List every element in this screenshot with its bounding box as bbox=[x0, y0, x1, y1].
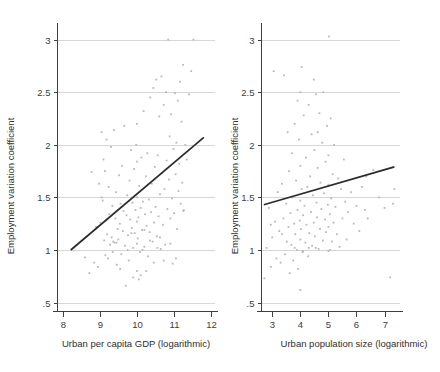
scatter-point bbox=[158, 215, 160, 217]
scatter-point bbox=[303, 114, 305, 116]
scatter-point bbox=[137, 238, 139, 240]
scatter-point bbox=[127, 234, 129, 236]
scatter-point bbox=[270, 266, 272, 268]
scatter-point bbox=[121, 165, 123, 167]
scatter-point bbox=[180, 203, 182, 205]
scatter-point bbox=[164, 244, 166, 246]
scatter-point bbox=[307, 255, 309, 257]
scatter-point bbox=[325, 231, 327, 233]
scatter-point bbox=[300, 228, 302, 230]
scatter-point bbox=[176, 228, 178, 230]
scatter-point bbox=[93, 262, 95, 264]
scatter-point bbox=[167, 208, 169, 210]
scatter-point bbox=[181, 121, 183, 123]
scatter-point bbox=[155, 79, 157, 81]
scatter-point bbox=[142, 249, 144, 251]
scatter-point bbox=[173, 212, 175, 214]
scatter-point bbox=[159, 193, 161, 195]
scatter-point bbox=[140, 157, 142, 159]
y-tick-label: 1 bbox=[249, 245, 254, 256]
scatter-point bbox=[329, 213, 331, 215]
scatter-point bbox=[296, 249, 298, 251]
scatter-point bbox=[273, 70, 275, 72]
scatter-point bbox=[353, 223, 355, 225]
scatter-point bbox=[325, 161, 327, 163]
scatter-point bbox=[149, 240, 151, 242]
scatter-point bbox=[277, 191, 279, 193]
right-x-axis-title: Urban population size (logarithmic) bbox=[281, 338, 428, 349]
scatter-point bbox=[152, 241, 154, 243]
scatter-point bbox=[313, 79, 315, 81]
scatter-point bbox=[310, 211, 312, 213]
scatter-point bbox=[181, 182, 183, 184]
scatter-point bbox=[139, 251, 141, 253]
scatter-point bbox=[308, 104, 310, 106]
scatter-point bbox=[301, 188, 303, 190]
scatter-point bbox=[190, 70, 192, 72]
scatter-point bbox=[333, 222, 335, 224]
scatter-point bbox=[136, 270, 138, 272]
right-y-axis-title: Employment variation coefficient bbox=[229, 117, 240, 254]
scatter-point bbox=[330, 198, 332, 200]
scatter-point bbox=[186, 159, 188, 161]
scatter-point bbox=[294, 247, 296, 249]
left-axes bbox=[53, 23, 219, 317]
scatter-point bbox=[358, 230, 360, 232]
scatter-point bbox=[84, 256, 86, 258]
scatter-point bbox=[356, 205, 358, 207]
scatter-point bbox=[101, 131, 103, 133]
x-tick-label: 6 bbox=[354, 319, 359, 330]
scatter-point bbox=[111, 236, 113, 238]
scatter-point bbox=[364, 209, 366, 211]
left-y-axis-title: Employment variation coefficient bbox=[5, 117, 16, 254]
scatter-point bbox=[119, 268, 121, 270]
scatter-point bbox=[136, 243, 138, 245]
scatter-point bbox=[274, 221, 276, 223]
scatter-point bbox=[145, 270, 147, 272]
scatter-point bbox=[150, 211, 152, 213]
scatter-point bbox=[306, 224, 308, 226]
scatter-point bbox=[144, 213, 146, 215]
scatter-point bbox=[138, 279, 140, 281]
scatter-point bbox=[389, 276, 391, 278]
scatter-point bbox=[270, 224, 272, 226]
scatter-point bbox=[138, 216, 140, 218]
scatter-point bbox=[132, 247, 134, 249]
scatter-point bbox=[183, 210, 185, 212]
x-tick-label: 12 bbox=[206, 319, 217, 330]
scatter-point bbox=[175, 142, 177, 144]
scatter-point bbox=[136, 197, 138, 199]
scatter-point bbox=[167, 39, 169, 41]
scatter-point bbox=[136, 123, 138, 125]
scatter-point bbox=[115, 191, 117, 193]
scatter-point bbox=[178, 190, 180, 192]
scatter-point bbox=[323, 192, 325, 194]
scatter-point bbox=[297, 268, 299, 270]
scatter-point bbox=[161, 76, 163, 78]
left-x-axis-title: Urban per capita GDP (logarithmic) bbox=[62, 338, 210, 349]
scatter-point bbox=[316, 202, 318, 204]
scatter-point bbox=[340, 188, 342, 190]
y-tick-label: 1 bbox=[45, 245, 50, 256]
scatter-point bbox=[113, 129, 115, 131]
y-tick-label: 3 bbox=[249, 35, 254, 46]
y-tick-label: 3 bbox=[45, 35, 50, 46]
scatter-point bbox=[104, 254, 106, 256]
y-tick-label: 2 bbox=[45, 140, 50, 151]
scatter-point bbox=[271, 236, 273, 238]
scatter-point bbox=[148, 199, 150, 201]
scatter-point bbox=[315, 247, 317, 249]
scatter-point bbox=[103, 159, 105, 161]
scatter-point bbox=[120, 253, 122, 255]
scatter-point bbox=[393, 188, 395, 190]
scatter-point bbox=[288, 226, 290, 228]
left-scatter-points bbox=[84, 39, 194, 287]
scatter-point bbox=[132, 276, 134, 278]
scatter-point bbox=[299, 165, 301, 167]
y-tick-label: .5 bbox=[43, 298, 51, 309]
scatter-point bbox=[384, 207, 386, 209]
x-tick-label: 4 bbox=[298, 319, 303, 330]
scatter-point bbox=[324, 219, 326, 221]
scatter-point bbox=[122, 230, 124, 232]
scatter-point bbox=[320, 208, 322, 210]
